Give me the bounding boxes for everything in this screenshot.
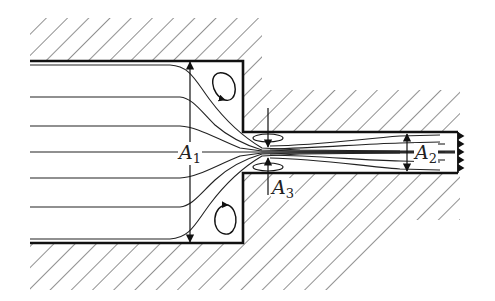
outlet-flow-arrows xyxy=(458,132,463,173)
corner-eddy-bottom xyxy=(215,205,236,234)
label-a2: A2 xyxy=(414,143,438,165)
label-a3: A3 xyxy=(271,178,295,200)
label-a1: A1 xyxy=(178,143,202,165)
corner-eddy-top xyxy=(213,73,236,101)
wall-hatching xyxy=(30,18,460,290)
